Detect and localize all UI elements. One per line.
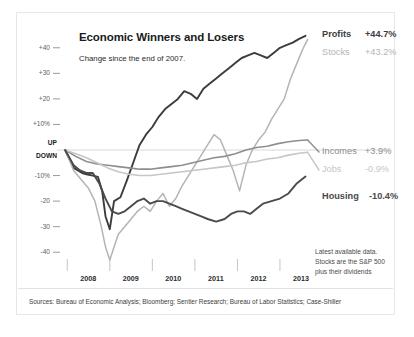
y-axis-tick-label: +40 xyxy=(17,44,50,51)
x-axis-tick-label: 2010 xyxy=(153,274,193,283)
series-lines xyxy=(65,36,307,260)
legend-label-housing: Housing xyxy=(322,191,359,201)
y-axis-tick-label: -30 xyxy=(17,223,50,230)
legend-leader-lines xyxy=(308,140,319,170)
legend-label-incomes: Incomes xyxy=(322,146,357,156)
legend-value-profits: +44.7% xyxy=(365,29,396,39)
x-axis-tick-marks xyxy=(67,259,280,271)
y-axis-tick-label: +10% xyxy=(17,120,50,127)
page-title: Economic Winners and Losers xyxy=(79,31,244,43)
y-axis-tick-label: -40 xyxy=(17,248,50,255)
y-axis-up-label: UP xyxy=(17,139,57,146)
footer-divider xyxy=(18,288,393,289)
y-axis-tick-label: -20 xyxy=(17,197,50,204)
legend-value-incomes: +3.9% xyxy=(365,146,391,156)
x-axis-tick-label: 2009 xyxy=(111,274,151,283)
sources-line: Sources: Bureau of Economic Analysis; Bl… xyxy=(29,298,341,305)
y-axis-tick-label: +30 xyxy=(17,69,50,76)
chart-figure: Economic Winners and Losers Change since… xyxy=(16,12,395,315)
legend-label-jobs: Jobs xyxy=(322,164,341,174)
legend-label-profits: Profits xyxy=(322,29,351,39)
x-axis-tick-label: 2008 xyxy=(68,274,108,283)
footnote-line: Stocks are the S&P 500 xyxy=(315,257,385,267)
chart-subtitle: Change since the end of 2007. xyxy=(79,54,185,63)
y-axis-tick-label: +20 xyxy=(17,95,50,102)
legend-value-jobs: -0.9% xyxy=(365,164,389,174)
x-axis-tick-label: 2011 xyxy=(196,274,236,283)
footnote-line: plus their dividends xyxy=(315,267,371,277)
x-axis-tick-label: 2012 xyxy=(238,274,278,283)
legend-value-housing: -10.4% xyxy=(369,191,398,201)
legend-label-stocks: Stocks xyxy=(322,47,350,57)
y-axis-down-label: DOWN xyxy=(17,152,57,159)
y-axis-tick-label: -10% xyxy=(17,172,50,179)
footnote-line: Latest available data. xyxy=(315,247,377,257)
legend-value-stocks: +43.2% xyxy=(365,47,396,57)
